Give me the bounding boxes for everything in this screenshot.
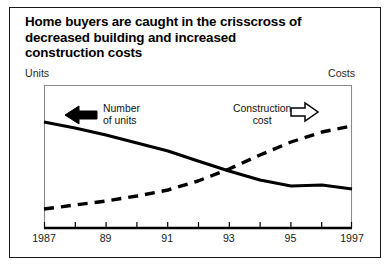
x-tick-label-1997: 1997: [340, 232, 364, 244]
x-tick-label-1987: 1987: [32, 232, 56, 244]
annotation-units-line-2: of units: [103, 115, 140, 127]
plot-area: [0, 0, 392, 272]
annotation-construction-cost: Construction cost: [233, 103, 291, 126]
annotation-number-of-units: Number of units: [103, 103, 140, 126]
annotation-costs-line-2: cost: [233, 115, 291, 127]
series-construction-cost: [44, 126, 352, 209]
left-arrow-filled-icon: [65, 106, 97, 124]
right-arrow-outline-icon: [291, 103, 318, 121]
x-tick-label-95: 95: [284, 232, 296, 244]
x-tick-label-89: 89: [100, 232, 112, 244]
chart-figure: Home buyers are caught in the crisscross…: [0, 0, 392, 272]
series-number-of-units: [44, 122, 352, 189]
x-tick-label-93: 93: [223, 232, 235, 244]
x-tick-label-91: 91: [161, 232, 173, 244]
annotation-units-line-1: Number: [103, 103, 140, 115]
annotation-costs-line-1: Construction: [233, 103, 291, 115]
